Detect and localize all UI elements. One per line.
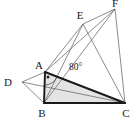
angle-label-80deg: 80° — [69, 62, 83, 72]
vertex-label-f: F — [112, 0, 118, 9]
vertex-label-c: C — [122, 107, 129, 119]
edge-A-B — [44, 72, 45, 103]
vertex-label-b: B — [38, 107, 45, 119]
geometry-canvas: 80° ABCDEF — [0, 0, 140, 122]
geometry-figure: 80° ABCDEF — [0, 0, 140, 122]
vertex-label-a: A — [35, 59, 43, 71]
vertex-label-d: D — [4, 76, 12, 88]
angle-vertex-dot — [47, 76, 50, 79]
vertex-label-e: E — [77, 9, 84, 21]
